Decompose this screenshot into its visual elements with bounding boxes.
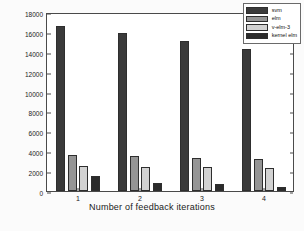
chart-legend: svmelmv-elm-3kernel elm <box>243 3 301 44</box>
x-axis-label: Number of feedback iterations <box>0 202 304 212</box>
y-tick-label: 18000 <box>25 11 43 18</box>
legend-label: v-elm-3 <box>272 25 290 31</box>
y-tick-label: 14000 <box>25 50 43 57</box>
y-tick-mark <box>290 193 294 194</box>
legend-label: elm <box>272 16 281 22</box>
legend-swatch-icon <box>246 33 268 40</box>
y-tick-mark <box>47 53 51 54</box>
bar-svm-3 <box>180 41 189 191</box>
bar-elm-2 <box>130 156 139 191</box>
bar-kernel-elm-3 <box>215 184 224 191</box>
y-tick-mark <box>47 133 51 134</box>
y-tick-label: 12000 <box>25 70 43 77</box>
y-tick-mark <box>47 113 51 114</box>
bar-v-elm-3-2 <box>141 167 150 191</box>
bar-kernel-elm-4 <box>277 187 286 191</box>
y-tick-label: 10000 <box>25 90 43 97</box>
bar-chart-figure: Time(second) 020004000600080001000012000… <box>0 0 304 231</box>
bar-kernel-elm-1 <box>91 176 100 191</box>
y-tick-mark <box>290 93 294 94</box>
bar-svm-2 <box>118 33 127 191</box>
y-tick-mark <box>47 93 51 94</box>
y-tick-mark <box>290 113 294 114</box>
y-tick-mark <box>47 14 51 15</box>
y-tick-mark <box>47 173 51 174</box>
y-tick-label: 2000 <box>29 170 43 177</box>
bar-v-elm-3-4 <box>265 168 274 191</box>
x-tick-label: 4 <box>262 195 266 202</box>
y-tick-mark <box>290 53 294 54</box>
y-tick-label: 16000 <box>25 30 43 37</box>
bar-kernel-elm-2 <box>153 183 162 191</box>
y-tick-label: 0 <box>39 190 43 197</box>
legend-item-kernel-elm: kernel elm <box>246 32 297 40</box>
legend-swatch-icon <box>246 7 268 14</box>
y-tick-label: 6000 <box>29 130 43 137</box>
y-tick-mark <box>47 73 51 74</box>
bar-elm-4 <box>254 159 263 191</box>
bar-v-elm-3-3 <box>203 167 212 191</box>
y-tick-mark <box>290 173 294 174</box>
legend-item-svm: svm <box>246 7 297 15</box>
legend-label: kernel elm <box>272 33 297 39</box>
bar-svm-4 <box>242 49 251 191</box>
bar-v-elm-3-1 <box>79 166 88 191</box>
y-tick-label: 8000 <box>29 110 43 117</box>
bar-svm-1 <box>56 26 65 191</box>
y-tick-mark <box>290 133 294 134</box>
legend-swatch-icon <box>246 16 268 23</box>
bar-elm-1 <box>68 155 77 191</box>
x-tick-label: 1 <box>76 195 80 202</box>
legend-swatch-icon <box>246 24 268 31</box>
legend-item-elm: elm <box>246 15 297 23</box>
bar-elm-3 <box>192 158 201 191</box>
y-tick-mark <box>47 153 51 154</box>
y-tick-label: 4000 <box>29 150 43 157</box>
legend-label: svm <box>272 8 282 14</box>
y-tick-mark <box>290 73 294 74</box>
x-tick-label: 3 <box>200 195 204 202</box>
y-tick-mark <box>290 153 294 154</box>
y-tick-mark <box>47 33 51 34</box>
legend-item-v-elm-3: v-elm-3 <box>246 24 297 32</box>
y-tick-mark <box>47 193 51 194</box>
x-tick-label: 2 <box>138 195 142 202</box>
